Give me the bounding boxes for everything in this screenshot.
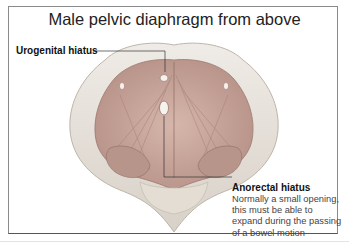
desc-line-1: Normally a small opening, — [232, 194, 341, 205]
anorectal-description: Normally a small opening, this must be a… — [232, 194, 341, 239]
bottom-divider — [0, 241, 349, 242]
label-urogenital-hiatus: Urogenital hiatus — [16, 45, 98, 56]
anorectal-opening — [160, 101, 169, 115]
label-anorectal-hiatus: Anorectal hiatus — [232, 182, 310, 193]
desc-line-2: this must be able to — [232, 205, 341, 216]
desc-line-4: of a bowel motion — [232, 228, 341, 239]
urethral-opening — [160, 75, 168, 82]
desc-line-3: expand during the passing — [232, 216, 341, 227]
